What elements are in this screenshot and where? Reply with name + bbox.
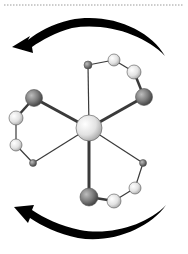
molecule-rotation-diagram xyxy=(0,0,188,254)
atom-left-light-lower xyxy=(10,139,22,151)
top-rotation-arrow-icon xyxy=(12,18,165,56)
atoms-group xyxy=(9,54,153,208)
atom-right-dark xyxy=(136,89,153,106)
atom-top-small xyxy=(84,61,92,69)
bottom-rotation-arrow-icon xyxy=(14,205,166,239)
atom-right-light xyxy=(127,65,141,79)
atom-left-dark xyxy=(26,90,43,107)
atom-bottom-dark xyxy=(80,188,98,206)
atom-bottom-light xyxy=(107,194,121,208)
atom-left-light-upper xyxy=(9,111,23,125)
atom-top-right xyxy=(108,54,120,66)
atom-left-small xyxy=(30,160,37,167)
atom-bottom-right-small xyxy=(140,160,147,167)
atom-bottom-right-light xyxy=(129,182,141,194)
atom-center xyxy=(76,115,102,141)
